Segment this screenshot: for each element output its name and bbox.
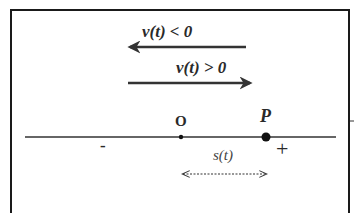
origin-label: O <box>175 113 187 130</box>
negative-velocity-label: v(t) < 0 <box>142 22 192 42</box>
point-p-dot <box>262 133 271 142</box>
displacement-label: s(t) <box>213 147 233 164</box>
positive-velocity-label: v(t) > 0 <box>176 58 226 78</box>
point-p-label: P <box>260 106 271 127</box>
negative-sign: - <box>100 136 106 156</box>
origin-dot <box>179 135 183 139</box>
positive-sign: + <box>276 136 288 162</box>
